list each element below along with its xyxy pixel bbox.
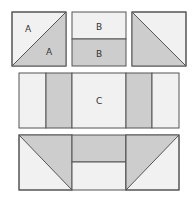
quilt-block-diagram: A A B B C [0, 0, 194, 199]
block-c-label: C [96, 96, 102, 106]
block-c-row: C [19, 73, 179, 128]
block-b-label-bottom: B [96, 49, 102, 59]
block-a-label-bottom: A [46, 47, 53, 57]
block-a-label-top: A [25, 24, 32, 34]
block-triangle-right [132, 12, 186, 66]
bottom-row [19, 135, 179, 190]
block-b: B B [72, 12, 126, 66]
block-a: A A [12, 12, 66, 66]
block-b-label-top: B [96, 22, 102, 32]
